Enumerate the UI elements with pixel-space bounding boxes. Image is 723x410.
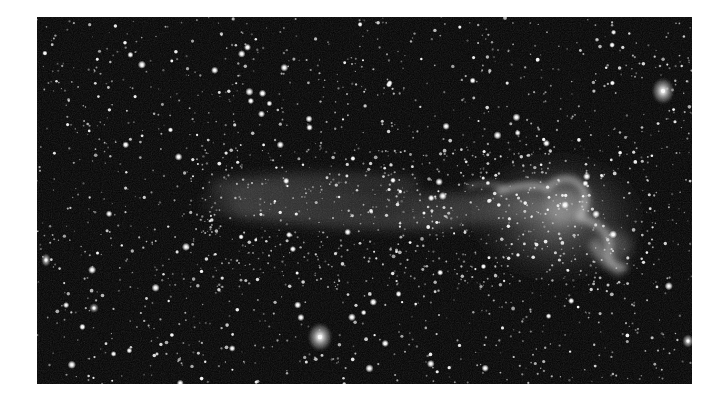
star-field-image <box>37 17 692 384</box>
page <box>0 0 723 410</box>
noise-grain <box>37 17 692 384</box>
astronomical-photo <box>37 17 692 384</box>
